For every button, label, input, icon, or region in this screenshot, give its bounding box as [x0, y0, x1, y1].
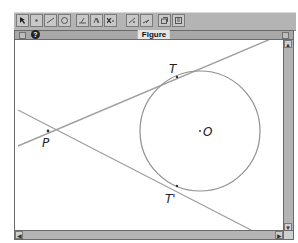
text-tool-button[interactable]: [172, 14, 185, 27]
close-box[interactable]: [19, 32, 26, 39]
figure-window: ? Figure P T T' O ▲ ▼ ◀ ▶: [14, 30, 294, 240]
point-O[interactable]: [199, 130, 201, 132]
zoom-box[interactable]: [282, 32, 289, 39]
geometry-figure: P T T' O: [15, 40, 283, 231]
label-T-prime: T': [165, 192, 176, 206]
toolbar: [14, 12, 296, 31]
tool-group-3: [126, 14, 154, 28]
window-title: Figure: [138, 30, 170, 39]
tool-group-1: [16, 14, 72, 28]
draw-tool-button[interactable]: [140, 14, 153, 27]
circle-icon: [61, 17, 68, 24]
scroll-up-arrow-icon[interactable]: ▲: [284, 40, 292, 48]
point-T-prime[interactable]: [176, 185, 178, 187]
point-P[interactable]: [47, 130, 50, 133]
tangent-line-PT-prime[interactable]: [18, 110, 251, 230]
label-T: T: [169, 62, 178, 76]
scroll-left-arrow-icon[interactable]: ◀: [15, 231, 23, 239]
pointer-tool-button[interactable]: [16, 14, 29, 27]
point-icon: [33, 17, 40, 24]
tool-group-2: [76, 14, 118, 28]
line-icon: [47, 17, 54, 24]
macro-tool-button[interactable]: [158, 14, 171, 27]
scroll-right-arrow-icon[interactable]: ▶: [275, 231, 283, 239]
vertical-scrollbar[interactable]: ▲ ▼: [283, 40, 293, 231]
arrow-pointer-icon: [19, 17, 26, 24]
measure-icon: [107, 17, 114, 24]
display-tool-button[interactable]: [126, 14, 139, 27]
construct-tool-button[interactable]: [76, 14, 89, 27]
horizontal-scrollbar[interactable]: ◀ ▶: [15, 230, 283, 239]
label-O: O: [203, 125, 212, 139]
construct-icon: [79, 17, 86, 24]
display-icon: [129, 17, 136, 24]
transform-tool-button[interactable]: [90, 14, 103, 27]
macro-icon: [161, 17, 168, 24]
circle-tool-button[interactable]: [58, 14, 71, 27]
draw-icon: [143, 17, 150, 24]
label-P: P: [42, 136, 50, 150]
point-T[interactable]: [176, 76, 178, 78]
resize-grow-box[interactable]: [283, 230, 293, 239]
line-tool-button[interactable]: [44, 14, 57, 27]
window-titlebar[interactable]: ? Figure: [15, 31, 293, 40]
text-icon: [175, 17, 182, 24]
tool-group-4: [158, 14, 186, 28]
transform-icon: [93, 17, 100, 24]
help-icon[interactable]: ?: [31, 30, 40, 39]
point-tool-button[interactable]: [30, 14, 43, 27]
measure-tool-button[interactable]: [104, 14, 117, 27]
drawing-canvas[interactable]: P T T' O: [15, 40, 283, 231]
